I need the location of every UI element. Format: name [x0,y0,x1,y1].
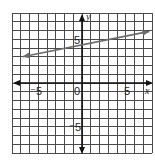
x-axis-label: x [144,85,150,96]
x-tick-neg5: ⁻5 [30,85,42,97]
y-tick-pos5: 5 [74,34,80,46]
y-tick-neg5: ⁻5 [69,121,81,133]
coordinate-grid-chart: y x ⁻5 0 5 5 ⁻5 [0,0,155,164]
origin-label: 0 [74,85,80,97]
data-line [23,30,150,59]
y-axis-label: y [85,11,91,22]
x-tick-pos5: 5 [124,85,130,97]
